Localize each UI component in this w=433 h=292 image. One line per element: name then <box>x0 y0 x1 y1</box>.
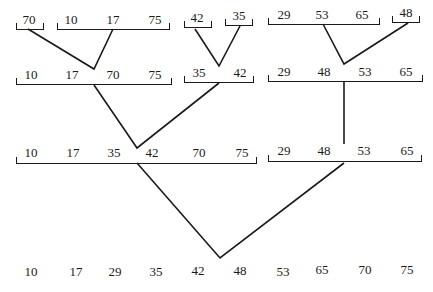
value-l1-75: 75 <box>149 68 162 82</box>
value-l2-70: 70 <box>193 146 206 160</box>
bracket-l2-g0 <box>16 157 257 164</box>
value-l1-10: 10 <box>25 68 38 82</box>
value-l3-48: 48 <box>234 264 247 278</box>
value-l0-29: 29 <box>278 8 291 22</box>
value-l1-29: 29 <box>278 65 291 79</box>
value-l2-53: 53 <box>358 144 371 158</box>
value-l2-75: 75 <box>236 146 249 160</box>
bracket-l2-g1 <box>268 155 422 162</box>
value-l0-48: 48 <box>400 6 413 20</box>
value-l3-42: 42 <box>192 264 205 278</box>
value-l0-10: 10 <box>65 13 78 27</box>
value-l3-75: 75 <box>401 263 414 277</box>
value-l3-17: 17 <box>70 265 83 279</box>
value-l3-10: 10 <box>25 265 38 279</box>
value-l2-17: 17 <box>67 146 80 160</box>
value-l1-53: 53 <box>359 65 372 79</box>
value-l0-53: 53 <box>316 8 329 22</box>
value-l1-17: 17 <box>66 68 79 82</box>
value-l1-65: 65 <box>400 65 413 79</box>
value-l0-65: 65 <box>356 8 369 22</box>
value-l2-65: 65 <box>401 144 414 158</box>
value-l0-70: 70 <box>23 13 36 27</box>
value-l2-29: 29 <box>278 144 291 158</box>
merge-sort-diagram: 70 10 17 75 42 35 29 53 65 48 10 17 70 7… <box>0 0 433 292</box>
value-l3-53: 53 <box>277 265 290 279</box>
value-l3-35: 35 <box>150 265 163 279</box>
value-l2-35: 35 <box>108 146 121 160</box>
value-l2-42: 42 <box>146 146 159 160</box>
value-l1-70: 70 <box>107 68 120 82</box>
value-l1-35: 35 <box>193 66 206 80</box>
value-l0-42: 42 <box>191 11 204 25</box>
value-l3-65: 65 <box>316 263 329 277</box>
value-l0-75: 75 <box>149 13 162 27</box>
value-l2-48: 48 <box>318 144 331 158</box>
value-l3-70: 70 <box>359 263 372 277</box>
value-l2-10: 10 <box>25 146 38 160</box>
value-l0-35: 35 <box>233 9 246 23</box>
value-l1-48: 48 <box>318 65 331 79</box>
value-l0-17: 17 <box>107 13 120 27</box>
value-l3-29: 29 <box>109 265 122 279</box>
value-l1-42: 42 <box>234 66 247 80</box>
